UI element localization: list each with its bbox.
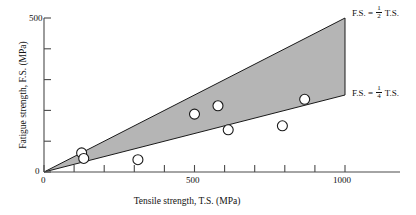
plot-canvas bbox=[0, 0, 416, 215]
x-axis-title-text: Tensile strength, T.S. (MPa) bbox=[134, 196, 241, 206]
x-tick-label-0: 0 bbox=[41, 175, 46, 185]
x-axis-title: Tensile strength, T.S. (MPa) bbox=[0, 196, 416, 206]
lower-bound-denominator: 4 bbox=[376, 92, 382, 100]
upper-bound-numerator: 1 bbox=[376, 5, 382, 12]
lower-bound-numerator: 1 bbox=[376, 85, 382, 92]
y-axis-title: Fatigue strength, F.S. (MPa) bbox=[18, 15, 28, 175]
data-point bbox=[223, 125, 233, 135]
lower-bound-annotation: F.S. = 1 4 T.S. bbox=[352, 85, 399, 100]
upper-bound-prefix: F.S. = bbox=[352, 8, 373, 18]
data-point bbox=[79, 153, 89, 163]
y-axis-ticks bbox=[44, 18, 51, 172]
upper-bound-annotation: F.S. = 1 2 T.S. bbox=[352, 5, 399, 20]
lower-bound-prefix: F.S. = bbox=[352, 88, 373, 98]
upper-bound-suffix: T.S. bbox=[385, 8, 399, 18]
data-point bbox=[213, 101, 223, 111]
data-point bbox=[300, 94, 310, 104]
upper-bound-fraction: 1 2 bbox=[376, 5, 382, 20]
figure: 500 0 0 500 1000 Tensile strength, T.S. … bbox=[0, 0, 416, 215]
data-point bbox=[190, 109, 200, 119]
upper-bound-denominator: 2 bbox=[376, 12, 382, 20]
y-tick-label-500: 500 bbox=[29, 13, 43, 23]
x-tick-label-500: 500 bbox=[186, 175, 200, 185]
y-tick-label-0: 0 bbox=[35, 166, 40, 176]
data-point bbox=[277, 121, 287, 131]
lower-bound-suffix: T.S. bbox=[385, 88, 399, 98]
y-axis-title-text: Fatigue strength, F.S. (MPa) bbox=[18, 41, 28, 148]
lower-bound-fraction: 1 4 bbox=[376, 85, 382, 100]
x-tick-label-1000: 1000 bbox=[333, 175, 351, 185]
x-axis-ticks bbox=[44, 165, 345, 172]
data-point bbox=[133, 155, 143, 165]
